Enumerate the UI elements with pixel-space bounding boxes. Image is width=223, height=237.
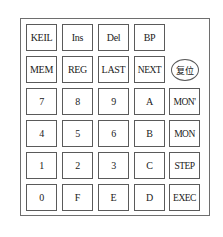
key-5[interactable]: 5 <box>62 120 93 147</box>
key-3[interactable]: 3 <box>98 152 129 179</box>
key-ins[interactable]: Ins <box>62 24 93 51</box>
key-bp[interactable]: BP <box>134 24 165 51</box>
key-mon[interactable]: MON <box>169 120 200 147</box>
key-exec[interactable]: EXEC <box>169 184 200 211</box>
key-9[interactable]: 9 <box>98 88 129 115</box>
key-e[interactable]: E <box>98 184 129 211</box>
key-6[interactable]: 6 <box>98 120 129 147</box>
key-reg[interactable]: REG <box>62 56 93 83</box>
reset-button[interactable]: 复位 <box>171 59 199 81</box>
key-8[interactable]: 8 <box>62 88 93 115</box>
key-b[interactable]: B <box>134 120 165 147</box>
key-2[interactable]: 2 <box>62 152 93 179</box>
keypad-panel: KEIL Ins Del BP MEM REG LAST NEXT 复位 7 8… <box>0 0 223 237</box>
key-del[interactable]: Del <box>98 24 129 51</box>
key-next[interactable]: NEXT <box>134 56 165 83</box>
key-d[interactable]: D <box>134 184 165 211</box>
key-1[interactable]: 1 <box>26 152 57 179</box>
key-mon-prime[interactable]: MON' <box>169 88 200 115</box>
key-a[interactable]: A <box>134 88 165 115</box>
key-c[interactable]: C <box>134 152 165 179</box>
key-7[interactable]: 7 <box>26 88 57 115</box>
key-keil[interactable]: KEIL <box>26 24 57 51</box>
key-f[interactable]: F <box>62 184 93 211</box>
key-step[interactable]: STEP <box>169 152 200 179</box>
key-0[interactable]: 0 <box>26 184 57 211</box>
key-4[interactable]: 4 <box>26 120 57 147</box>
key-mem[interactable]: MEM <box>26 56 57 83</box>
key-last[interactable]: LAST <box>98 56 129 83</box>
